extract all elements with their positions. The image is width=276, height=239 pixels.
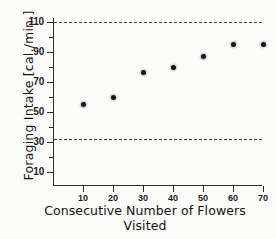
x-axis-tick-label: 40 [160,193,186,203]
x-axis-tick [113,186,114,192]
x-axis-tick [83,186,84,192]
y-axis-title: Foraging Intake [cal./min.] [21,10,36,182]
x-axis-tick [173,186,174,192]
x-axis-title-line-1: Consecutive Number of Flowers [44,203,246,218]
x-axis-tick-label: 20 [100,193,126,203]
data-point [111,95,116,100]
x-axis-line [53,185,262,186]
x-axis-tick [233,186,234,192]
x-axis-tick-label: 10 [70,193,96,203]
x-axis-title-line-2: Visited [28,218,262,233]
chart-figure: 1030507090110 10203040506070 Foraging In… [0,0,276,239]
x-axis-tick-label: 30 [130,193,156,203]
data-point [171,65,176,70]
x-axis-tick [203,186,204,192]
x-axis-tick-label: 50 [190,193,216,203]
data-point [261,42,266,47]
data-point [81,102,86,107]
x-axis-tick-label: 60 [220,193,246,203]
plot-area [53,18,262,185]
data-point [231,42,236,47]
data-point [201,54,206,59]
x-axis-title: Consecutive Number of Flowers Visited [28,203,262,233]
x-axis-tick [263,186,264,192]
x-axis-tick-label: 70 [250,193,276,203]
x-axis-tick [143,186,144,192]
data-point [141,70,146,75]
